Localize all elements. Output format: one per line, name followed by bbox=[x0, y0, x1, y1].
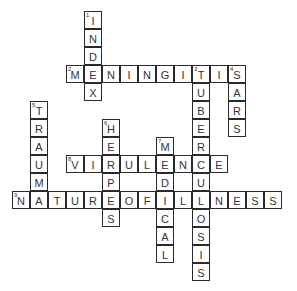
cell-letter: A bbox=[31, 141, 47, 153]
crossword-cell[interactable]: I bbox=[120, 65, 138, 83]
crossword-cell[interactable]: R bbox=[228, 101, 246, 119]
crossword-cell[interactable]: 3T bbox=[192, 65, 210, 83]
cell-letter: U bbox=[31, 159, 47, 171]
crossword-cell[interactable]: 6H bbox=[102, 119, 120, 137]
cell-letter: I bbox=[85, 15, 101, 27]
cell-letter: D bbox=[85, 51, 101, 63]
cell-letter: C bbox=[193, 159, 209, 171]
crossword-cell[interactable]: O bbox=[192, 209, 210, 227]
crossword-cell[interactable]: 4S bbox=[228, 65, 246, 83]
cell-letter: H bbox=[103, 123, 119, 135]
crossword-cell[interactable]: E bbox=[192, 119, 210, 137]
crossword-cell[interactable]: S bbox=[246, 191, 264, 209]
cell-letter: A bbox=[31, 195, 47, 207]
cell-letter: U bbox=[193, 177, 209, 189]
crossword-cell[interactable]: E bbox=[156, 155, 174, 173]
cell-letter: L bbox=[193, 195, 209, 207]
cell-letter: I bbox=[193, 249, 209, 261]
crossword-cell[interactable]: C bbox=[192, 155, 210, 173]
cell-letter: E bbox=[229, 195, 245, 207]
crossword-cell[interactable]: R bbox=[102, 155, 120, 173]
crossword-cell[interactable]: U bbox=[192, 83, 210, 101]
crossword-cell[interactable]: E bbox=[210, 155, 228, 173]
crossword-cell[interactable]: S bbox=[192, 227, 210, 245]
crossword-cell[interactable]: T bbox=[48, 191, 66, 209]
crossword-cell[interactable]: I bbox=[192, 245, 210, 263]
cell-letter: N bbox=[211, 195, 227, 207]
crossword-cell[interactable]: N bbox=[174, 155, 192, 173]
crossword-cell[interactable]: L bbox=[156, 245, 174, 263]
crossword-cell[interactable]: U bbox=[30, 155, 48, 173]
cell-letter: N bbox=[85, 33, 101, 45]
crossword-cell[interactable]: 7M bbox=[156, 137, 174, 155]
cell-letter: L bbox=[175, 195, 191, 207]
crossword-cell[interactable]: F bbox=[138, 191, 156, 209]
crossword-cell[interactable]: C bbox=[156, 209, 174, 227]
crossword-cell[interactable]: U bbox=[66, 191, 84, 209]
crossword-cell[interactable]: S bbox=[264, 191, 282, 209]
crossword-cell[interactable]: E bbox=[84, 65, 102, 83]
crossword-cell[interactable]: S bbox=[228, 119, 246, 137]
cell-letter: U bbox=[67, 195, 83, 207]
cell-letter: L bbox=[139, 159, 155, 171]
cell-letter: T bbox=[193, 69, 209, 81]
crossword-cell[interactable]: O bbox=[120, 191, 138, 209]
cell-letter: B bbox=[193, 105, 209, 117]
cell-letter: R bbox=[85, 195, 101, 207]
crossword-cell[interactable]: D bbox=[156, 173, 174, 191]
crossword-cell[interactable]: D bbox=[84, 47, 102, 65]
cell-letter: S bbox=[265, 195, 281, 207]
cell-letter: U bbox=[193, 87, 209, 99]
crossword-cell[interactable]: 5T bbox=[30, 101, 48, 119]
crossword-cell[interactable]: N bbox=[138, 65, 156, 83]
crossword-cell[interactable]: R bbox=[84, 191, 102, 209]
cell-letter: E bbox=[157, 159, 173, 171]
crossword-cell[interactable]: S bbox=[192, 263, 210, 281]
cell-letter: O bbox=[121, 195, 137, 207]
crossword-cell[interactable]: 1I bbox=[84, 11, 102, 29]
crossword-cell[interactable]: E bbox=[102, 137, 120, 155]
crossword-cell[interactable]: L bbox=[192, 191, 210, 209]
crossword-cell[interactable]: B bbox=[192, 101, 210, 119]
cell-letter: M bbox=[157, 141, 173, 153]
crossword-cell[interactable]: 8V bbox=[66, 155, 84, 173]
crossword-cell[interactable]: N bbox=[84, 29, 102, 47]
crossword-cell[interactable]: E bbox=[228, 191, 246, 209]
cell-letter: M bbox=[31, 177, 47, 189]
crossword-cell[interactable]: R bbox=[192, 137, 210, 155]
crossword-cell[interactable]: N bbox=[210, 191, 228, 209]
crossword-cell[interactable]: S bbox=[102, 209, 120, 227]
cell-letter: A bbox=[229, 87, 245, 99]
crossword-cell[interactable]: I bbox=[210, 65, 228, 83]
cell-letter: R bbox=[31, 123, 47, 135]
cell-letter: M bbox=[67, 69, 83, 81]
crossword-cell[interactable]: A bbox=[30, 137, 48, 155]
cell-letter: U bbox=[121, 159, 137, 171]
cell-letter: C bbox=[157, 213, 173, 225]
crossword-cell[interactable]: I bbox=[174, 65, 192, 83]
crossword-cell[interactable]: U bbox=[192, 173, 210, 191]
cell-letter: O bbox=[193, 213, 209, 225]
crossword-cell[interactable]: A bbox=[30, 191, 48, 209]
crossword-cell[interactable]: L bbox=[174, 191, 192, 209]
crossword-cell[interactable]: 9N bbox=[12, 191, 30, 209]
crossword-cell[interactable]: N bbox=[102, 65, 120, 83]
crossword-cell[interactable]: E bbox=[102, 191, 120, 209]
crossword-cell[interactable]: U bbox=[120, 155, 138, 173]
crossword-cell[interactable]: G bbox=[156, 65, 174, 83]
crossword-cell[interactable]: A bbox=[156, 227, 174, 245]
cell-letter: E bbox=[85, 69, 101, 81]
crossword-cell[interactable]: 2M bbox=[66, 65, 84, 83]
cell-letter: S bbox=[247, 195, 263, 207]
crossword-cell[interactable]: M bbox=[30, 173, 48, 191]
crossword-cell[interactable]: X bbox=[84, 83, 102, 101]
crossword-cell[interactable]: I bbox=[84, 155, 102, 173]
cell-letter: G bbox=[157, 69, 173, 81]
crossword-cell[interactable]: R bbox=[30, 119, 48, 137]
cell-letter: E bbox=[103, 141, 119, 153]
crossword-cell[interactable]: P bbox=[102, 173, 120, 191]
cell-letter: N bbox=[139, 69, 155, 81]
crossword-cell[interactable]: L bbox=[138, 155, 156, 173]
crossword-cell[interactable]: A bbox=[228, 83, 246, 101]
crossword-cell[interactable]: I bbox=[156, 191, 174, 209]
